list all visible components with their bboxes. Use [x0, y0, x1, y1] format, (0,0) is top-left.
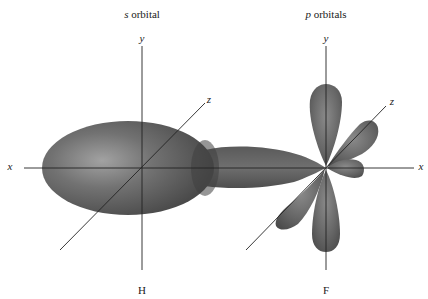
right-y-label: y — [324, 32, 329, 44]
p-orbitals-title-text: orbitals — [311, 8, 347, 20]
s-orbital-title: s orbital — [124, 8, 160, 20]
left-z-label: z — [207, 93, 211, 105]
s-orbital-title-text: orbital — [128, 8, 159, 20]
hydrogen-label: H — [138, 284, 146, 296]
left-y-label: y — [140, 32, 145, 44]
overlap-lobe — [205, 147, 326, 189]
orbital-figure — [0, 0, 428, 299]
fluorine-label: F — [323, 284, 329, 296]
right-x-label: x — [419, 160, 424, 172]
left-x-label: x — [8, 160, 13, 172]
p-orbitals-title: p orbitals — [305, 8, 346, 20]
orbital-overlap-diagram: s orbital p orbitals y z x y z x H F — [0, 0, 428, 299]
right-z-label: z — [390, 95, 394, 107]
